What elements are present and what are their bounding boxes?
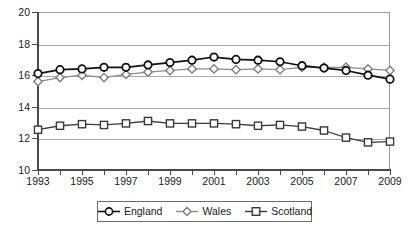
series-wales: [34, 63, 394, 86]
data-point: [56, 73, 64, 81]
data-point: [34, 70, 41, 77]
data-point: [144, 61, 151, 68]
data-point: [188, 56, 195, 63]
legend-label-wales: Wales: [202, 206, 231, 217]
data-point: [166, 59, 173, 66]
legend-item-scotland[interactable]: Scotland: [244, 206, 312, 217]
series-scotland: [34, 117, 393, 146]
data-point: [56, 122, 63, 129]
data-point: [188, 120, 195, 127]
data-point: [386, 75, 393, 82]
data-point: [210, 53, 217, 60]
legend-label-scotland: Scotland: [271, 206, 312, 217]
data-point: [78, 65, 85, 72]
square-marker-icon: [244, 206, 268, 217]
data-point: [254, 56, 261, 63]
data-point: [188, 65, 196, 73]
data-point: [342, 134, 349, 141]
diamond-marker-icon: [175, 206, 199, 217]
data-point: [144, 117, 151, 124]
data-point: [386, 138, 393, 145]
data-point: [166, 66, 174, 74]
data-point: [122, 120, 129, 127]
data-point: [364, 72, 371, 79]
data-point: [320, 127, 327, 134]
data-point: [232, 56, 239, 63]
data-point: [34, 77, 42, 85]
legend-item-england[interactable]: England: [97, 206, 163, 217]
data-point: [342, 67, 349, 74]
data-point: [100, 121, 107, 128]
data-point: [122, 64, 129, 71]
data-point: [232, 65, 240, 73]
data-point: [34, 126, 41, 133]
data-point: [210, 65, 218, 73]
chart-container: 101214161820 199319951997199920012003200…: [0, 0, 409, 228]
data-point: [364, 139, 371, 146]
data-point: [100, 64, 107, 71]
data-point: [254, 122, 261, 129]
data-point: [320, 64, 327, 71]
data-point: [166, 120, 173, 127]
data-point: [254, 65, 262, 73]
chart-legend: England Wales Scotland: [97, 201, 312, 222]
data-point: [78, 121, 85, 128]
data-point: [298, 62, 305, 69]
circle-marker-icon: [97, 206, 121, 217]
data-point: [276, 65, 284, 73]
data-point: [232, 121, 239, 128]
data-point: [298, 123, 305, 130]
data-point: [386, 66, 394, 74]
data-point: [100, 73, 108, 81]
data-point: [210, 120, 217, 127]
data-point: [276, 58, 283, 65]
data-point: [56, 66, 63, 73]
legend-item-wales[interactable]: Wales: [175, 206, 231, 217]
data-point: [276, 121, 283, 128]
legend-label-england: England: [124, 206, 163, 217]
data-series-layer: [0, 0, 409, 228]
